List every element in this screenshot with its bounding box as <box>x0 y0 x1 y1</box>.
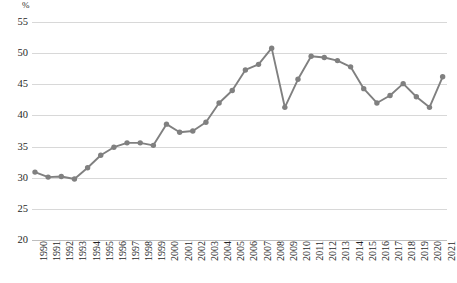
x-axis-tick-label: 2013 <box>341 241 351 281</box>
x-axis-tick-label: 1999 <box>157 241 167 281</box>
y-axis-tick-label: 45 <box>2 79 28 90</box>
x-axis-tick-label: 1998 <box>144 241 154 281</box>
data-point-marker: 2012: 49.3 <box>322 55 327 60</box>
series-polyline <box>35 48 443 179</box>
data-point-marker: 2015: 44.3 <box>361 86 366 91</box>
x-axis-tick-label: 2020 <box>433 241 443 281</box>
data-point-marker: 2011: 49.5 <box>308 54 313 59</box>
y-axis-tick-label: 25 <box>2 204 28 215</box>
y-axis-tick-label: 35 <box>2 142 28 153</box>
x-axis-tick-labels: 1990199119921993199419951996199719981999… <box>32 241 447 283</box>
data-point-marker: 2008: 50.8 <box>269 45 274 50</box>
x-axis-tick-label: 2011 <box>315 241 325 281</box>
x-axis-tick-label: 2017 <box>394 241 404 281</box>
data-point-marker: 2016: 42 <box>374 100 379 105</box>
x-axis-tick-label: 2003 <box>210 241 220 281</box>
data-point-marker: 2013: 48.8 <box>335 58 340 63</box>
data-point-marker: 2014: 47.8 <box>348 64 353 69</box>
x-axis-tick-label: 1996 <box>118 241 128 281</box>
data-point-marker: 1994: 31.6 <box>85 165 90 170</box>
y-axis-tick-label: 40 <box>2 110 28 121</box>
data-point-marker: 2009: 41.3 <box>282 105 287 110</box>
data-point-marker: 2018: 45.1 <box>400 81 405 86</box>
x-axis-tick-label: 2021 <box>447 241 457 281</box>
x-axis-tick-label: 1992 <box>65 241 75 281</box>
data-point-marker: 2000: 38.6 <box>164 121 169 126</box>
data-point-marker: 2007: 48.2 <box>256 62 261 67</box>
x-axis-tick-label: 2016 <box>381 241 391 281</box>
x-axis-tick-label: 2010 <box>302 241 312 281</box>
x-axis-tick-label: 2014 <box>355 241 365 281</box>
data-point-marker: 1997: 35.6 <box>124 140 129 145</box>
data-point-marker: 1992: 30.2 <box>59 174 64 179</box>
x-axis-tick-label: 1995 <box>105 241 115 281</box>
y-axis-tick-label: 20 <box>2 235 28 246</box>
data-point-marker: 1998: 35.6 <box>138 140 143 145</box>
y-axis-tick-label: 55 <box>2 17 28 28</box>
x-axis-tick-label: 1993 <box>78 241 88 281</box>
data-point-marker: 1993: 29.8 <box>72 176 77 181</box>
data-point-marker: 2002: 37.5 <box>190 128 195 133</box>
y-axis-tick-label: 50 <box>2 48 28 59</box>
data-point-marker: 2001: 37.3 <box>177 130 182 135</box>
data-point-marker: 1995: 33.6 <box>98 153 103 158</box>
x-axis-tick-label: 1991 <box>52 241 62 281</box>
data-point-marker: 2021: 46.2 <box>440 74 445 79</box>
x-axis-tick-label: 1994 <box>92 241 102 281</box>
x-axis-tick-label: 2000 <box>170 241 180 281</box>
data-point-marker: 2020: 41.3 <box>427 105 432 110</box>
x-axis-tick-label: 2019 <box>420 241 430 281</box>
series-line: 1990: 30.91991: 30.11992: 30.21993: 29.8… <box>32 22 447 240</box>
x-axis-tick-label: 2001 <box>184 241 194 281</box>
x-axis-tick-label: 2007 <box>263 241 273 281</box>
data-point-marker: 1996: 34.9 <box>111 144 116 149</box>
x-axis-tick-label: 1997 <box>131 241 141 281</box>
x-axis-tick-label: 1990 <box>39 241 49 281</box>
data-point-marker: 2004: 42 <box>216 100 221 105</box>
x-axis-tick-label: 2008 <box>276 241 286 281</box>
data-point-marker: 2005: 44 <box>230 88 235 93</box>
x-axis-tick-label: 2018 <box>407 241 417 281</box>
x-axis-tick-label: 2004 <box>223 241 233 281</box>
data-point-marker: 2003: 38.9 <box>203 120 208 125</box>
x-axis-tick-label: 2015 <box>368 241 378 281</box>
data-point-marker: 1990: 30.9 <box>32 169 37 174</box>
x-axis-tick-label: 2012 <box>328 241 338 281</box>
data-point-marker: 2006: 47.3 <box>243 67 248 72</box>
x-axis-tick-label: 2005 <box>236 241 246 281</box>
x-axis-tick-label: 2002 <box>197 241 207 281</box>
data-point-marker: 2010: 45.8 <box>295 77 300 82</box>
y-axis-unit-label: % <box>22 1 30 10</box>
data-point-marker: 1991: 30.1 <box>45 174 50 179</box>
y-axis-tick-label: 30 <box>2 173 28 184</box>
x-axis-tick-label: 2009 <box>289 241 299 281</box>
data-point-marker: 2019: 43 <box>414 94 419 99</box>
data-point-marker: 1999: 35.2 <box>151 143 156 148</box>
x-axis-tick-label: 2006 <box>249 241 259 281</box>
plot-area: 1990: 30.91991: 30.11992: 30.21993: 29.8… <box>32 22 447 240</box>
data-point-marker: 2017: 43.2 <box>387 93 392 98</box>
